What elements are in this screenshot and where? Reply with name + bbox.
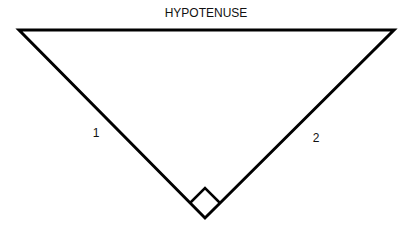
leg-2-label: 2 (313, 131, 320, 145)
hypotenuse-label: HYPOTENUSE (165, 6, 248, 20)
right-angle-marker (190, 188, 220, 203)
leg-1-label: 1 (93, 126, 100, 140)
diagram-svg: HYPOTENUSE 1 2 (0, 0, 418, 230)
right-triangle-diagram: HYPOTENUSE 1 2 (0, 0, 418, 230)
